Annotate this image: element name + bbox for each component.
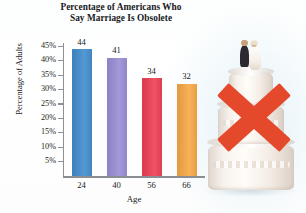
bar-value-label: 32 [175, 71, 199, 81]
x-tick-label: 40 [103, 180, 131, 190]
y-tick-label: 15% [25, 127, 56, 136]
y-tick-label: 5% [25, 156, 56, 165]
bar-value-label: 41 [105, 45, 129, 55]
y-tick-label: 30% [25, 84, 56, 93]
y-tick-label: 35% [25, 70, 56, 79]
y-tick-label: 10% [25, 142, 56, 151]
y-tick-label: 40% [25, 55, 56, 64]
x-tick-label: 24 [68, 180, 96, 190]
y-tick-label: 20% [25, 113, 56, 122]
wedding-cake-image [196, 24, 306, 202]
y-axis-title: Percentage of Adults [14, 17, 24, 141]
y-tick-label: 25% [25, 99, 56, 108]
bar-age-24 [72, 49, 92, 176]
y-axis-tick-labels: 5%10%15%20%25%30%35%40%45% [25, 0, 56, 213]
x-axis-line [63, 176, 205, 178]
red-x-icon [196, 24, 306, 202]
plot-area [64, 44, 204, 176]
bar-value-label: 34 [140, 66, 164, 76]
bar-age-40 [107, 58, 127, 176]
bar-age-56 [142, 78, 162, 176]
chart-figure: Percentage of Americans Who Say Marriage… [0, 0, 306, 213]
bar-value-label: 44 [70, 37, 94, 47]
y-tick-label: 45% [25, 41, 56, 50]
x-tick-label: 56 [138, 180, 166, 190]
bar-age-66 [177, 84, 197, 176]
x-axis-title: Age [64, 194, 204, 204]
